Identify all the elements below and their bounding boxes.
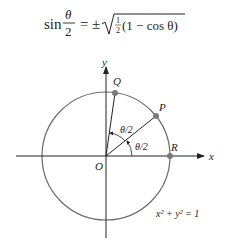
formula-radicand: (1 − cos θ) <box>122 18 178 33</box>
point-r-label: R <box>170 141 178 153</box>
origin-label: O <box>95 160 103 172</box>
formula-pm: ± <box>92 16 100 32</box>
point-r <box>167 153 173 159</box>
point-p <box>153 113 159 119</box>
ray-oq <box>106 93 115 156</box>
point-q <box>112 90 118 96</box>
angle-label-lower: θ/2 <box>135 141 148 152</box>
half-angle-formula: sin θ 2 = ± 1 2 (1 − cos θ) <box>44 7 185 39</box>
circle-equation: x² + y² = 1 <box>155 208 199 219</box>
formula-two: 2 <box>65 24 72 39</box>
x-axis-label: x <box>208 150 214 162</box>
half-num: 1 <box>116 16 120 25</box>
formula-sin: sin <box>44 16 62 32</box>
half-den: 2 <box>116 26 120 35</box>
formula-theta: θ <box>65 7 72 22</box>
point-p-label: P <box>158 101 166 113</box>
formula-equals: = <box>80 16 88 32</box>
angle-arc-rp <box>127 141 132 156</box>
point-q-label: Q <box>113 75 121 87</box>
angle-label-upper: θ/2 <box>120 124 133 135</box>
y-axis-label: y <box>101 56 107 68</box>
unit-circle-diagram: sin θ 2 = ± 1 2 (1 − cos θ) x y θ/2 θ/2 … <box>0 0 226 249</box>
